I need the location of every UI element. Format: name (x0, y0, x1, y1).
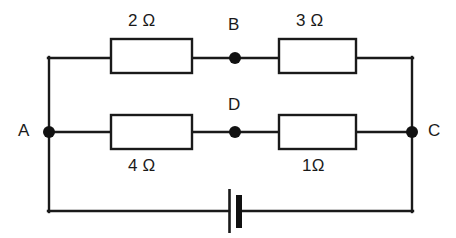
node-dot-c (406, 126, 418, 138)
node-label-b: B (228, 16, 240, 33)
node-label-d: D (228, 96, 240, 113)
node-dot-d (229, 126, 241, 138)
resistor-4-ohm-body (111, 115, 192, 149)
resistor-1-ohm-body (279, 115, 356, 149)
resistor-value-bottom-right: 1Ω (302, 157, 325, 174)
circuit-schematic-canvas (0, 0, 456, 238)
node-dot-b (229, 52, 241, 64)
node-label-c: C (428, 122, 440, 139)
resistor-value-bottom-left: 4 Ω (128, 157, 156, 174)
battery-short-plate (236, 195, 242, 228)
circuit-diagram: A B C D 2 Ω 3 Ω 4 Ω 1Ω (0, 0, 456, 238)
resistor-3-ohm-body (279, 39, 356, 73)
resistor-value-top-right: 3 Ω (296, 12, 324, 29)
resistor-value-top-left: 2 Ω (128, 12, 156, 29)
battery-symbol (230, 189, 243, 233)
node-label-a: A (18, 122, 30, 139)
resistor-2-ohm-body (111, 39, 192, 73)
node-dot-a (43, 126, 55, 138)
